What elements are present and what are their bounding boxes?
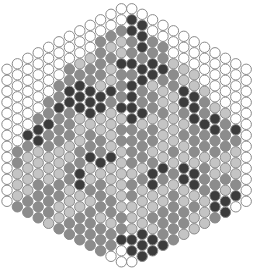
mosaic-cell — [220, 207, 230, 217]
mosaic-cell — [95, 114, 105, 124]
mosaic-column — [85, 20, 95, 250]
mosaic-cell — [220, 108, 230, 118]
mosaic-cell — [137, 152, 147, 162]
mosaic-cell — [106, 163, 116, 173]
mosaic-cell — [127, 147, 137, 157]
mosaic-column — [75, 26, 85, 245]
mosaic-cell — [2, 152, 12, 162]
mosaic-cell — [199, 130, 209, 140]
mosaic-cell — [189, 114, 199, 124]
mosaic-cell — [64, 141, 74, 151]
mosaic-cell — [2, 141, 12, 151]
mosaic-cell — [220, 97, 230, 107]
mosaic-cell — [220, 130, 230, 140]
mosaic-cell — [147, 246, 157, 256]
mosaic-cell — [127, 26, 137, 36]
mosaic-cell — [127, 235, 137, 245]
mosaic-cell — [64, 64, 74, 74]
mosaic-cell — [231, 202, 241, 212]
mosaic-cell — [75, 70, 85, 80]
mosaic-cell — [12, 202, 22, 212]
mosaic-column — [220, 53, 230, 217]
mosaic-cell — [43, 141, 53, 151]
mosaic-cell — [95, 136, 105, 146]
mosaic-cell — [147, 59, 157, 69]
mosaic-cell — [127, 81, 137, 91]
mosaic-cell — [33, 136, 43, 146]
mosaic-cell — [168, 180, 178, 190]
mosaic-cell — [2, 64, 12, 74]
mosaic-cell — [168, 202, 178, 212]
mosaic-cell — [64, 185, 74, 195]
mosaic-cell — [106, 42, 116, 52]
mosaic-cell — [85, 130, 95, 140]
mosaic-cell — [137, 108, 147, 118]
mosaic-cell — [199, 119, 209, 129]
mosaic-cell — [85, 20, 95, 30]
mosaic-cell — [168, 92, 178, 102]
mosaic-cell — [64, 86, 74, 96]
mosaic-cell — [95, 180, 105, 190]
mosaic-cell — [147, 125, 157, 135]
mosaic-cell — [127, 136, 137, 146]
mosaic-cell — [106, 108, 116, 118]
mosaic-cell — [75, 180, 85, 190]
mosaic-cell — [33, 147, 43, 157]
mosaic-cell — [189, 213, 199, 223]
mosaic-cell — [43, 75, 53, 85]
mosaic-cell — [85, 42, 95, 52]
mosaic-cell — [179, 141, 189, 151]
mosaic-cell — [158, 42, 168, 52]
mosaic-cell — [137, 9, 147, 19]
mosaic-cell — [64, 53, 74, 63]
mosaic-cell — [220, 75, 230, 85]
mosaic-cell — [64, 119, 74, 129]
mosaic-cell — [64, 108, 74, 118]
mosaic-cell — [127, 246, 137, 256]
mosaic-cell — [106, 31, 116, 41]
mosaic-cell — [158, 141, 168, 151]
mosaic-cell — [241, 130, 251, 140]
mosaic-cell — [43, 207, 53, 217]
mosaic-cell — [106, 119, 116, 129]
mosaic-cell — [43, 108, 53, 118]
mosaic-cell — [75, 224, 85, 234]
mosaic-cell — [158, 163, 168, 173]
mosaic-cell — [189, 224, 199, 234]
mosaic-cell — [210, 158, 220, 168]
mosaic-cell — [54, 125, 64, 135]
mosaic-cell — [199, 174, 209, 184]
mosaic-cell — [158, 152, 168, 162]
mosaic-cell — [23, 130, 33, 140]
mosaic-cell — [147, 15, 157, 25]
mosaic-column — [116, 4, 126, 267]
mosaic-cell — [54, 81, 64, 91]
mosaic-cell — [12, 70, 22, 80]
mosaic-cell — [220, 152, 230, 162]
mosaic-cell — [106, 97, 116, 107]
mosaic-cell — [241, 64, 251, 74]
mosaic-cell — [33, 103, 43, 113]
mosaic-cell — [127, 180, 137, 190]
mosaic-cell — [64, 75, 74, 85]
mosaic-cell — [231, 158, 241, 168]
mosaic-cell — [220, 163, 230, 173]
mosaic-cell — [189, 158, 199, 168]
mosaic-cell — [189, 202, 199, 212]
mosaic-cell — [168, 147, 178, 157]
mosaic-cell — [127, 224, 137, 234]
mosaic-cell — [95, 37, 105, 47]
mosaic-cell — [137, 31, 147, 41]
mosaic-cell — [231, 125, 241, 135]
mosaic-cell — [33, 213, 43, 223]
mosaic-cell — [43, 174, 53, 184]
mosaic-cell — [158, 86, 168, 96]
mosaic-cell — [231, 191, 241, 201]
mosaic-cell — [33, 114, 43, 124]
mosaic-cell — [231, 70, 241, 80]
mosaic-cell — [85, 31, 95, 41]
mosaic-cell — [33, 125, 43, 135]
mosaic-cell — [158, 75, 168, 85]
mosaic-cell — [2, 97, 12, 107]
mosaic-cell — [64, 42, 74, 52]
